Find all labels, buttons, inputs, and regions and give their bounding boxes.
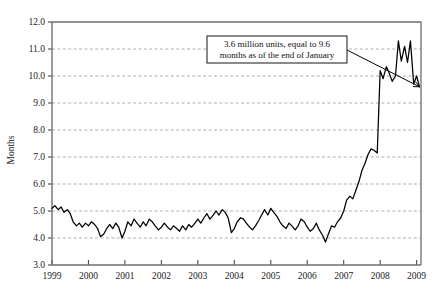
y-tick-labels: 3.04.05.06.07.08.09.010.011.012.0 bbox=[28, 17, 45, 270]
x-tick-label: 2006 bbox=[298, 271, 317, 281]
x-tick-label: 2000 bbox=[79, 271, 98, 281]
x-tick-label: 2007 bbox=[334, 271, 353, 281]
annotation-line-1: 3.6 million units, equal to 9.6 bbox=[224, 39, 330, 49]
gridlines bbox=[52, 49, 421, 238]
y-axis-title: Months bbox=[6, 135, 16, 164]
x-tick-label: 2003 bbox=[188, 271, 207, 281]
x-tick-label: 2004 bbox=[225, 271, 244, 281]
x-tick-labels: 1999200020012002200320042005200620072008… bbox=[43, 271, 427, 281]
x-tick-label: 1999 bbox=[43, 271, 62, 281]
y-tick-label: 5.0 bbox=[33, 206, 45, 216]
y-tick-label: 7.0 bbox=[33, 152, 45, 162]
chart-figure: Months 3.04.05.06.07.08.09.010.011.012.0… bbox=[0, 0, 444, 296]
x-tick-label: 2009 bbox=[407, 271, 426, 281]
data-series-line bbox=[52, 41, 420, 242]
x-tick-label: 2008 bbox=[371, 271, 390, 281]
x-tick-marks bbox=[52, 260, 417, 265]
y-tick-label: 6.0 bbox=[33, 179, 45, 189]
y-tick-label: 9.0 bbox=[33, 98, 45, 108]
months-supply-line-chart: Months 3.04.05.06.07.08.09.010.011.012.0… bbox=[0, 0, 444, 296]
y-tick-label: 11.0 bbox=[29, 44, 46, 54]
x-tick-label: 2002 bbox=[152, 271, 171, 281]
annotation-line-2: months as of the end of January bbox=[220, 50, 335, 60]
y-tick-label: 12.0 bbox=[28, 17, 45, 27]
y-tick-label: 10.0 bbox=[28, 71, 45, 81]
y-tick-label: 3.0 bbox=[33, 260, 45, 270]
y-tick-label: 8.0 bbox=[33, 125, 45, 135]
x-tick-label: 2005 bbox=[261, 271, 280, 281]
x-tick-label: 2001 bbox=[115, 271, 134, 281]
y-tick-label: 4.0 bbox=[33, 233, 45, 243]
